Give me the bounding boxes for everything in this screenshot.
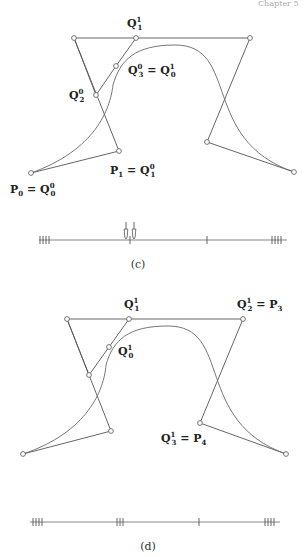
point-label: Q12 = P3	[237, 296, 283, 313]
point-label: Q03 = Q10	[128, 62, 176, 79]
control-point-marker	[114, 64, 119, 69]
page-header-fragment: Chapter 5	[258, 0, 299, 8]
point-label: Q13 = P4	[161, 430, 207, 447]
control-point-marker	[21, 452, 26, 457]
knot-insertion-arrow-icon	[132, 229, 136, 239]
knot-vector-line	[30, 518, 280, 526]
control-point-marker	[29, 171, 34, 176]
control-point-marker	[134, 36, 139, 41]
control-point-marker	[109, 429, 114, 434]
point-label: P1 = Q01	[110, 162, 156, 179]
figure-d: Q11Q12 = P3Q10Q13 = P4	[21, 296, 289, 526]
control-point-marker	[284, 452, 289, 457]
control-point-marker	[94, 93, 99, 98]
point-label: Q11	[127, 15, 142, 32]
control-point-marker	[292, 170, 297, 175]
caption-d: (d)	[140, 540, 156, 553]
control-point-marker	[65, 317, 70, 322]
control-point-marker	[87, 373, 92, 378]
point-label: Q10	[118, 343, 133, 360]
control-point-marker	[241, 317, 246, 322]
knot-insertion-arrow-icon	[124, 229, 128, 239]
point-label: Q11	[124, 296, 139, 313]
point-label: P0 = Q00	[10, 181, 56, 198]
control-point-marker	[72, 36, 77, 41]
control-point-marker	[248, 36, 253, 41]
control-point-marker	[117, 149, 122, 154]
control-point-marker	[205, 140, 210, 145]
control-polygon	[23, 319, 286, 454]
figure-c: Q11Q03 = Q10Q02P1 = Q01P0 = Q00	[10, 15, 296, 244]
control-point-marker	[107, 345, 112, 350]
b-spline-knot-insertion-diagram: Chapter 5 Q11Q03 = Q10Q02P1 = Q01P0 = Q0…	[0, 0, 306, 557]
b-spline-curve	[23, 326, 286, 454]
knot-vector-line	[39, 222, 287, 244]
control-point-marker	[198, 421, 203, 426]
caption-c: (c)	[131, 258, 146, 271]
point-label: Q02	[69, 87, 84, 104]
control-point-marker	[127, 317, 132, 322]
